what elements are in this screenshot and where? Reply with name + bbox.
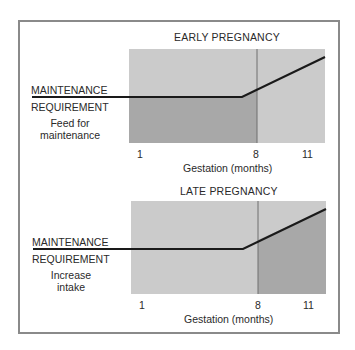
tick-label: 8 <box>255 299 261 311</box>
panel-title: EARLY PREGNANCY <box>174 31 280 43</box>
feeding-note-line2: intake <box>41 281 101 293</box>
tick-label: 8 <box>253 148 259 160</box>
line-label-bottom: REQUIREMENT <box>31 101 109 113</box>
diagram-graphics <box>0 0 355 350</box>
feeding-note-line1: Increase <box>41 269 101 281</box>
line-label-top: MAINTENANCE <box>32 236 108 248</box>
tick-label: 11 <box>303 299 314 311</box>
tick-label: 1 <box>139 299 145 311</box>
line-label-bottom: REQUIREMENT <box>32 253 110 265</box>
feeding-note-line1: Feed for <box>40 117 100 129</box>
panel-title: LATE PREGNANCY <box>180 185 278 197</box>
tick-label: 11 <box>302 148 313 160</box>
x-axis-label: Gestation (months) <box>183 162 272 174</box>
tick-label: 1 <box>137 148 143 160</box>
feeding-note-line2: maintenance <box>40 129 100 141</box>
line-label-top: MAINTENANCE <box>31 84 107 96</box>
x-axis-label: Gestation (months) <box>184 313 273 325</box>
